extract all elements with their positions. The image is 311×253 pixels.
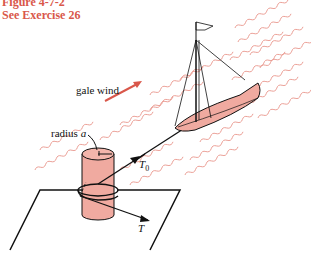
flag-icon: [196, 22, 213, 30]
ground-plane: [10, 190, 90, 250]
tension-out-label: T: [138, 222, 144, 234]
tension-in-label: T0: [139, 158, 149, 173]
radius-label: radius a: [51, 127, 86, 139]
capstan-diagram: [0, 0, 311, 253]
wind-label: gale wind: [76, 84, 119, 96]
